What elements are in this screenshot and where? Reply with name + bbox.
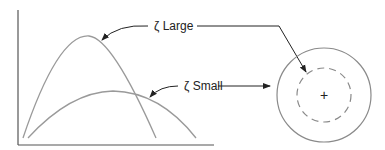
diagram-canvas: ζ Large ζ Small + [0, 0, 385, 150]
label-small: ζ Small [184, 79, 223, 93]
label-large: ζ Large [154, 19, 194, 33]
arrow-large-to-circle [197, 26, 306, 72]
curve-small-zeta [28, 91, 196, 138]
arrow-small-to-curve [150, 86, 178, 97]
diagram-svg: ζ Large ζ Small + [0, 0, 385, 150]
arrow-large-to-curve [102, 26, 148, 40]
center-marker: + [320, 87, 328, 103]
